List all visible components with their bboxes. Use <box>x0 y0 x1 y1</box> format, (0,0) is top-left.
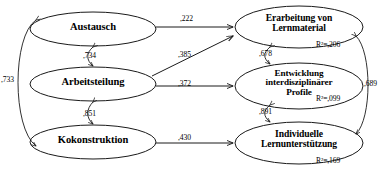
coefficient-austausch-to-erarbeitung: ,222 <box>180 14 193 23</box>
correlation-austausch-kokonstruktion <box>18 20 36 146</box>
correlation-label-austausch-arbeitsteilung: ,734 <box>83 51 96 60</box>
r2-individuelle: R²=,169 <box>316 156 340 165</box>
correlation-label-arbeitsteilung-kokonstruktion: ,851 <box>83 109 96 118</box>
node-erarbeitung-ellipse <box>235 6 363 48</box>
r2-entwicklung: R²=,099 <box>316 94 340 103</box>
residual-label-entwicklung-individuelle: ,891 <box>259 107 272 116</box>
coefficient-arbeitsteilung-to-erarbeitung: ,385 <box>178 50 191 59</box>
path-arbeitsteilung-to-erarbeitung <box>152 36 233 76</box>
residual-label-erarbeitung-individuelle: ,689 <box>364 79 377 88</box>
residual-label-erarbeitung-entwicklung: ,678 <box>259 49 272 58</box>
coefficient-kokonstruktion-to-individuelle: ,430 <box>178 133 191 142</box>
coefficient-arbeitsteilung-to-entwicklung: ,372 <box>178 79 191 88</box>
r2-erarbeitung: R²=,206 <box>316 40 340 49</box>
path-diagram: Austausch Arbeitsteilung Kokonstruktion … <box>0 0 380 174</box>
correlation-label-austausch-kokonstruktion: ,733 <box>1 75 14 84</box>
node-arbeitsteilung-ellipse <box>30 67 156 101</box>
node-individuelle-ellipse <box>235 122 363 164</box>
node-austausch-ellipse <box>30 12 156 46</box>
node-entwicklung-ellipse <box>235 63 363 109</box>
node-kokonstruktion-ellipse <box>30 125 156 159</box>
